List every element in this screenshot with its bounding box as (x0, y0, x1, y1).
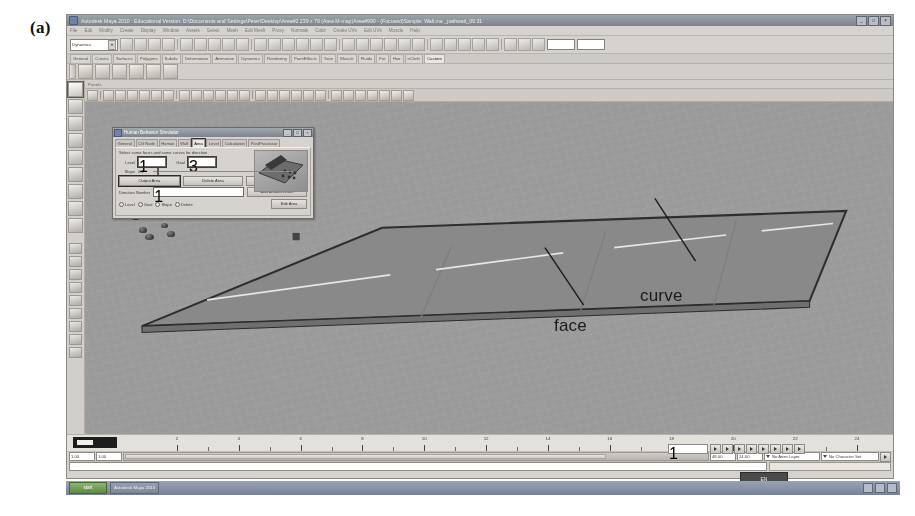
viewport-toolbar-icon-1[interactable] (115, 90, 126, 101)
menu-item-file[interactable]: File (70, 28, 77, 33)
status-line-icon-32[interactable] (518, 38, 531, 51)
slope-slider-handle[interactable] (157, 168, 159, 175)
range-slider[interactable] (123, 452, 709, 461)
viewport-toolbar-icon-14[interactable] (255, 90, 266, 101)
status-line-icon-25[interactable] (430, 38, 443, 51)
shelf-tab-deformation[interactable]: Deformation (182, 54, 211, 63)
status-line-icon-19[interactable] (356, 38, 369, 51)
shelf-tab-animation[interactable]: Animation (212, 54, 237, 63)
soft-modification-icon[interactable] (68, 201, 83, 216)
viewport-toolbar-icon-26[interactable] (391, 90, 402, 101)
dialog-tab-general[interactable]: General (115, 139, 135, 147)
shelf-tab-fur[interactable]: Fur (376, 54, 388, 63)
status-line-icon-5[interactable] (180, 38, 193, 51)
menu-item-edit-uvs[interactable]: Edit UVs (364, 28, 382, 33)
hypershade-persp-layout-icon[interactable] (69, 295, 82, 306)
status-line-icon-8[interactable] (222, 38, 235, 51)
shelf-button-5[interactable] (163, 64, 178, 79)
viewport-toolbar-icon-21[interactable] (331, 90, 342, 101)
select-arrow-icon[interactable] (87, 90, 98, 101)
shelf-drag-handle[interactable] (69, 64, 76, 79)
menu-item-mesh[interactable]: Mesh (227, 28, 238, 33)
panels-menu[interactable]: Panels (88, 82, 101, 87)
shelf-tab-surfaces[interactable]: Surfaces (113, 54, 136, 63)
viewport-toolbar-icon-3[interactable] (139, 90, 150, 101)
viewport-toolbar-icon-4[interactable] (151, 90, 162, 101)
dialog-tab-calculation[interactable]: Calculation (222, 139, 247, 147)
shelf-tab-polygons[interactable]: Polygons (137, 54, 161, 63)
viewport-toolbar-icon-24[interactable] (367, 90, 378, 101)
step-forward-key-icon[interactable] (782, 444, 793, 454)
output-area-button[interactable]: Output Area (119, 176, 180, 186)
radio-goal[interactable]: Goal (138, 202, 153, 207)
status-line-icon-12[interactable] (268, 38, 281, 51)
menu-item-window[interactable]: Window (163, 28, 179, 33)
level-field[interactable]: 1 (138, 157, 166, 167)
status-line-icon-28[interactable] (472, 38, 485, 51)
play-backwards-icon[interactable] (746, 444, 757, 454)
menu-item-create[interactable]: Create (120, 28, 134, 33)
start-button[interactable]: start (69, 482, 107, 494)
minimize-button[interactable]: _ (856, 16, 867, 26)
status-line-icon-15[interactable] (310, 38, 323, 51)
status-line-icon-23[interactable] (412, 38, 425, 51)
dialog-tab-human[interactable]: Human (159, 139, 177, 147)
perspective-viewport[interactable]: facecurve Human Behavior Simulator _ □ ×… (85, 102, 893, 434)
menu-item-display[interactable]: Display (141, 28, 156, 33)
shelf-tab-subdiv[interactable]: Subdiv (162, 54, 181, 63)
step-forward-frame-icon[interactable] (770, 444, 781, 454)
viewport-toolbar-icon-19[interactable] (315, 90, 326, 101)
last-tool-icon[interactable] (68, 218, 83, 233)
persp-graph-layout-icon[interactable] (69, 282, 82, 293)
menu-item-select[interactable]: Select (207, 28, 220, 33)
status-line-icon-31[interactable] (504, 38, 517, 51)
two-pane-side-icon[interactable] (69, 321, 82, 332)
dialog-close-button[interactable]: × (303, 129, 312, 137)
dialog-minimize-button[interactable]: _ (283, 129, 292, 137)
menu-item-modify[interactable]: Modify (99, 28, 113, 33)
viewport-toolbar-icon-2[interactable] (127, 90, 138, 101)
viewport-toolbar-icon-10[interactable] (215, 90, 226, 101)
chevron-down-icon[interactable]: ▾ (108, 40, 116, 50)
dialog-tab-wall[interactable]: Wall (178, 139, 191, 147)
direction-number-field[interactable]: 1 (153, 187, 244, 197)
viewport-toolbar-icon-11[interactable] (227, 90, 238, 101)
step-back-frame-icon[interactable] (734, 444, 745, 454)
shelf-tab-custom[interactable]: Custom (424, 54, 445, 63)
viewport-toolbar-icon-5[interactable] (163, 90, 174, 101)
command-input[interactable] (69, 462, 767, 471)
viewport-toolbar-icon-7[interactable] (179, 90, 190, 101)
rotate-tool-icon[interactable] (68, 150, 83, 165)
radio-level[interactable]: Level (119, 202, 135, 207)
animation-preferences-button[interactable] (880, 452, 891, 462)
step-back-key-icon[interactable] (722, 444, 733, 454)
play-forwards-icon[interactable] (758, 444, 769, 454)
radio-slope[interactable]: Slope (155, 202, 171, 207)
status-line-icon-20[interactable] (370, 38, 383, 51)
viewport-toolbar-icon-16[interactable] (279, 90, 290, 101)
status-line-icon-11[interactable] (254, 38, 267, 51)
status-line-icon-26[interactable] (444, 38, 457, 51)
viewport-toolbar-icon-15[interactable] (267, 90, 278, 101)
viewport-toolbar-icon-9[interactable] (203, 90, 214, 101)
move-tool-icon[interactable] (68, 133, 83, 148)
current-time-indicator[interactable] (73, 437, 117, 448)
close-button[interactable]: × (880, 16, 891, 26)
shelf-tab-rendering[interactable]: Rendering (264, 54, 290, 63)
shelf-button-4[interactable] (146, 64, 161, 79)
lasso-select-icon[interactable] (68, 99, 83, 114)
viewport-toolbar-icon-18[interactable] (303, 90, 314, 101)
menu-item-create-uvs[interactable]: Create UVs (333, 28, 357, 33)
maximize-button[interactable]: □ (868, 16, 879, 26)
viewport-toolbar-icon-22[interactable] (343, 90, 354, 101)
viewport-toolbar-icon-17[interactable] (291, 90, 302, 101)
radio-delete[interactable]: Delete (175, 202, 193, 207)
shelf-tab-curves[interactable]: Curves (92, 54, 112, 63)
menu-item-proxy[interactable]: Proxy (272, 28, 284, 33)
status-line-icon-6[interactable] (194, 38, 207, 51)
shield-icon[interactable] (887, 483, 897, 493)
range-start-field[interactable]: 1.00 (69, 452, 95, 461)
select-tool-icon[interactable] (68, 82, 83, 97)
status-line-icon-1[interactable] (134, 38, 147, 51)
scale-tool-icon[interactable] (68, 167, 83, 182)
